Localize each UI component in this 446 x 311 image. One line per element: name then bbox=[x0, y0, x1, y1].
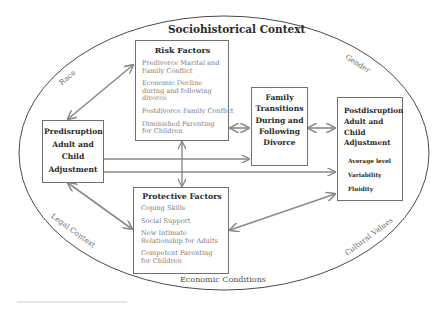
predisruption-box: Predisruption Adult and Child Adjustment bbox=[42, 120, 104, 183]
postdisruption-item: Fluidity bbox=[344, 182, 400, 196]
divorce-adjustment-diagram: Sociohistorical Context Race Gender Lega… bbox=[0, 0, 446, 311]
postdisruption-title: Postdisruption Adult and Child Adjustmen… bbox=[344, 106, 400, 149]
arrow-predisruption-risk bbox=[68, 65, 133, 119]
risk-factors-title: Risk Factors bbox=[142, 45, 223, 55]
protective-item: New Intimate Relationship for Adults bbox=[141, 230, 223, 245]
context-title: Sociohistorical Context bbox=[168, 23, 305, 35]
family-transitions-box: Family Transitions During and Following … bbox=[251, 87, 308, 166]
risk-factors-box: Risk Factors Predivorce Marital and Fami… bbox=[135, 40, 229, 141]
family-transitions-title: Family Transitions During and Following … bbox=[252, 92, 307, 148]
risk-item: Postdivorce Family Conflict bbox=[142, 108, 223, 116]
protective-factors-box: Protective Factors Coping Skills Social … bbox=[133, 187, 229, 274]
protective-item: Social Support bbox=[141, 218, 223, 226]
arrow-protective-postdisruption bbox=[230, 194, 335, 230]
protective-item: Coping Skills bbox=[141, 205, 223, 213]
arrow-predisruption-protective bbox=[68, 183, 132, 229]
risk-item: Economic Decline during and following di… bbox=[142, 80, 223, 103]
postdisruption-box: Postdisruption Adult and Child Adjustmen… bbox=[337, 97, 403, 201]
predisruption-title: Predisruption Adult and Child Adjustment bbox=[44, 126, 102, 176]
risk-item: Diminished Parenting for Children bbox=[142, 121, 223, 136]
postdisruption-item: Variability bbox=[344, 168, 400, 182]
postdisruption-item: Average level bbox=[344, 154, 400, 168]
bottom-divider bbox=[17, 301, 127, 303]
label-economic-conditions: Economic Conditions bbox=[180, 275, 266, 284]
protective-factors-title: Protective Factors bbox=[141, 192, 223, 201]
protective-item: Competent Parenting for Children bbox=[141, 250, 223, 265]
risk-item: Predivorce Marital and Family Conflict bbox=[142, 60, 223, 75]
